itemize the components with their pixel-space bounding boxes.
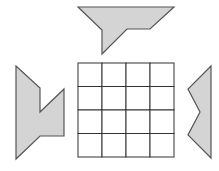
grid-cell xyxy=(102,63,126,87)
grid-cell xyxy=(126,87,150,111)
right-piece xyxy=(188,66,211,158)
grid-cell xyxy=(150,110,174,134)
diagram-canvas xyxy=(0,0,219,171)
diagram-svg xyxy=(0,0,219,171)
grid-cell xyxy=(102,110,126,134)
grid-cell xyxy=(126,110,150,134)
grid-cell xyxy=(78,63,102,87)
grid-cell xyxy=(102,87,126,111)
top-piece xyxy=(78,7,174,54)
grid-cell xyxy=(78,134,102,158)
left-piece xyxy=(16,66,64,159)
grid-cell xyxy=(78,110,102,134)
grid-cell xyxy=(150,134,174,158)
grid-cell xyxy=(150,87,174,111)
grid-cell xyxy=(78,87,102,111)
grid-cell xyxy=(126,63,150,87)
grid-cell xyxy=(150,63,174,87)
grid-cell xyxy=(102,134,126,158)
grid-cell xyxy=(126,134,150,158)
square-grid xyxy=(78,63,174,157)
